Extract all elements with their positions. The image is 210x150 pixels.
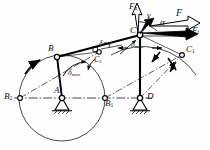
label-point-C2: C2 (94, 56, 102, 65)
joint-B (54, 54, 59, 59)
label-point-C1: C1 (186, 45, 195, 55)
label-angle-alpha: α (160, 18, 165, 27)
label-point-A: A (54, 86, 60, 95)
joint-B2 (18, 96, 23, 101)
joint-C1 (180, 53, 185, 58)
label-point-C: C (130, 26, 136, 35)
label-delta-max-right: δmax (131, 41, 143, 50)
label-point-D: D (147, 92, 154, 101)
label-force-Fn: Fn (129, 2, 137, 12)
joint-D (137, 95, 142, 100)
label-force-F: F (176, 8, 182, 18)
diagram-canvas: Fn F Ft γ α C δ=γ δmax B C1 C2 δmax B2 A… (0, 0, 210, 150)
angle-alpha-arc (151, 27, 157, 31)
label-delta-equals-gamma: δ=γ (99, 40, 111, 48)
label-delta-max-left: δmax (68, 69, 80, 78)
mechanism-figure (0, 0, 210, 150)
coupler-extension-C1 (140, 35, 182, 55)
label-point-B2: B2 (4, 92, 12, 102)
joint-A (59, 95, 64, 100)
label-point-B1: B1 (105, 99, 113, 109)
label-angle-gamma: γ (147, 11, 151, 20)
label-point-B: B (48, 44, 54, 53)
label-force-Ft: Ft (192, 26, 199, 36)
